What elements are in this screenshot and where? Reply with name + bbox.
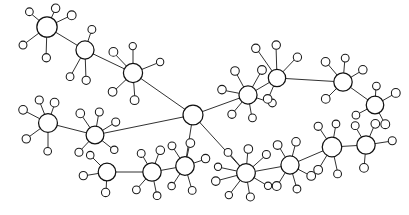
leaf-node [272,41,280,49]
hub-node [237,164,256,183]
leaf-edge [46,37,47,54]
leaf-node [156,58,163,65]
leaf-node [86,151,94,159]
leaf-node [153,192,161,200]
leaf-node [360,163,369,172]
hub-node [322,137,342,157]
hub-node [334,73,352,91]
leaf-node [112,118,120,126]
leaf-node [231,67,240,76]
hub-node [183,105,203,125]
leaf-node [314,165,323,174]
hub-node [123,63,142,82]
leaf-node [201,154,209,162]
leaf-node [42,54,50,62]
leaf-node [22,135,30,143]
leaf-node [129,42,136,49]
leaf-node [224,148,232,156]
hub-node [98,163,116,181]
leaf-node [76,109,85,118]
leaf-node [321,95,330,104]
hub-node [281,156,299,174]
leaf-node [137,149,145,157]
leaf-node [314,122,322,130]
leaf-node [244,145,253,154]
leaf-node [272,182,281,191]
leaf-node [225,191,232,198]
leaf-node [352,111,360,119]
leaf-node [44,147,52,155]
leaf-node [130,96,139,105]
leaf-node [82,76,90,84]
leaf-node [249,114,257,122]
hub-node [37,17,57,37]
leaf-node [359,66,367,74]
hub-node [86,126,104,144]
leaf-node [321,58,330,67]
leaf-node [334,170,342,178]
leaf-node [252,44,260,52]
leaf-node [214,163,221,170]
leaf-node [388,137,396,145]
leaf-node [168,142,176,150]
leaf-node [273,141,282,150]
graph-canvas [0,0,409,215]
leaf-node [26,8,34,16]
leaf-node [262,151,270,159]
leaf-node [341,54,349,62]
hub-node [366,96,384,114]
network-graph-diagram [0,0,409,215]
leaf-node [19,41,27,49]
hub-node [76,41,94,59]
leaf-node [67,11,76,20]
leaf-node [188,187,196,195]
leaf-node [186,139,195,148]
leaf-node [35,96,43,104]
diagram-background [0,0,409,215]
leaf-node [218,85,227,94]
leaf-node [381,120,390,129]
leaf-node [108,87,117,96]
leaf-node [373,82,381,90]
leaf-node [264,182,271,189]
leaf-node [19,106,28,115]
leaf-node [168,182,175,189]
leaf-edge [276,49,277,69]
hub-node [143,163,161,181]
leaf-node [391,89,400,98]
leaf-node [101,188,109,196]
leaf-node [109,47,118,56]
hub-node [39,114,58,133]
leaf-node [156,146,165,155]
leaf-node [246,193,254,201]
leaf-node [88,26,96,34]
leaf-node [292,138,300,146]
leaf-node [133,186,141,194]
leaf-node [79,171,87,179]
leaf-node [212,177,221,186]
leaf-node [263,95,272,104]
leaf-node [51,4,59,12]
leaf-node [95,108,103,116]
leaf-node [258,66,267,75]
leaf-node [371,120,380,129]
hub-node [268,69,285,86]
hub-node [176,157,195,176]
leaf-node [293,185,301,193]
leaf-node [351,122,359,130]
leaf-node [307,172,316,181]
leaf-node [50,98,59,107]
leaf-node [75,148,83,156]
hub-node [357,136,375,154]
hub-node [239,86,257,104]
leaf-node [228,110,236,118]
leaf-node [111,146,118,153]
leaf-node [66,73,74,81]
leaf-edge [85,59,86,76]
leaf-node [332,120,340,128]
leaf-node [293,53,301,61]
